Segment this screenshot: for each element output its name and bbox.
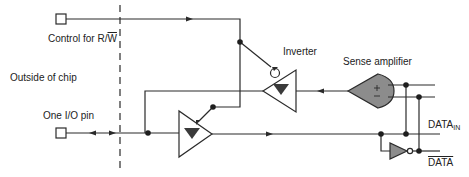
data-inverter-bubble <box>407 148 412 153</box>
junction-dot <box>403 131 409 137</box>
inverter-label: Inverter <box>283 47 317 57</box>
feedback-wire <box>145 91 263 133</box>
junction-dot <box>403 82 409 88</box>
junction-dot <box>378 131 384 137</box>
memory-io-circuit-diagram: Control for R/W Inverter Sense amplifier… <box>0 0 469 177</box>
control-arrow-icon <box>186 17 193 22</box>
control-to-inverter-wire <box>240 42 271 67</box>
amp-out-arrow-icon <box>317 89 324 94</box>
data-in-arrow-icon <box>266 132 273 137</box>
sense-amplifier-label: Sense amplifier <box>343 57 412 67</box>
junction-dot <box>145 130 151 136</box>
control-pin-pad <box>56 14 66 24</box>
data-in-label: DATAIN <box>428 120 460 131</box>
junction-dot <box>416 148 422 154</box>
junction-dot <box>416 94 422 100</box>
junction-dot <box>237 39 243 45</box>
outside-of-chip-label: Outside of chip <box>10 73 77 83</box>
circuit-schematic <box>0 0 469 177</box>
io-left-arrow-icon <box>89 131 96 136</box>
data-inverter-triangle <box>390 143 407 159</box>
io-pin-label: One I/O pin <box>43 111 94 121</box>
control-to-buffer-wire <box>198 107 213 122</box>
data-inverter-input-wire <box>381 134 390 151</box>
junction-dot <box>210 104 216 110</box>
sense-amplifier-shape <box>348 74 394 108</box>
control-label: Control for R/W <box>48 34 117 44</box>
io-pin-pad <box>56 128 66 138</box>
data-bar-label: DATA <box>428 158 453 168</box>
io-right-arrow-icon <box>109 131 116 136</box>
